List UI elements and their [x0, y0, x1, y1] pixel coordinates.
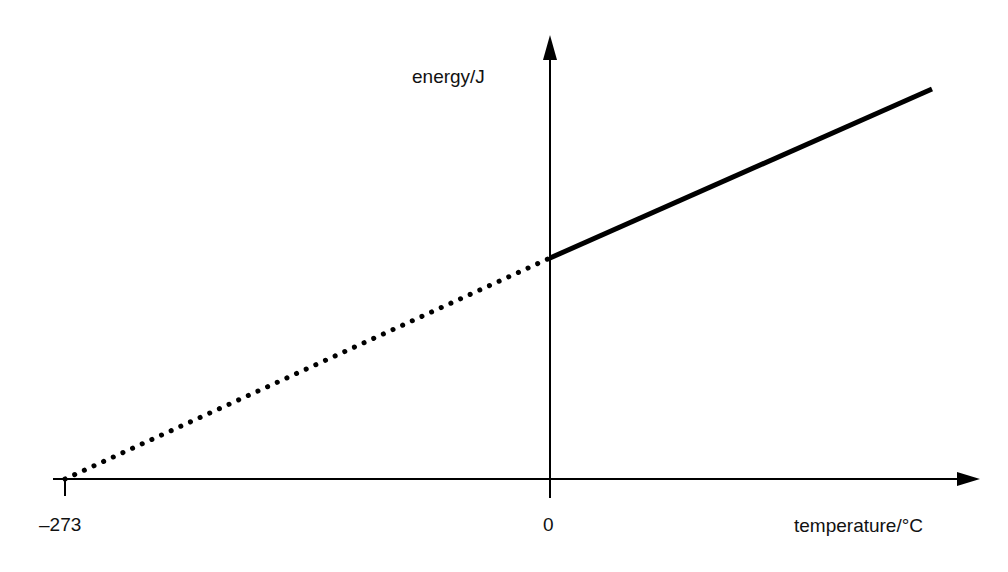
x-tick-label-neg273: –273 — [39, 514, 81, 536]
measured-line — [550, 89, 932, 258]
x-tick-label-zero: 0 — [543, 514, 554, 536]
x-axis-label: temperature/°C — [794, 515, 923, 537]
extrapolated-line — [65, 258, 550, 479]
x-axis-arrow-icon — [957, 472, 980, 486]
chart-canvas — [0, 0, 1008, 572]
y-axis-arrow-icon — [543, 35, 557, 60]
y-axis-label: energy/J — [412, 66, 485, 88]
energy-temperature-chart: energy/J temperature/°C –273 0 — [0, 0, 1008, 572]
